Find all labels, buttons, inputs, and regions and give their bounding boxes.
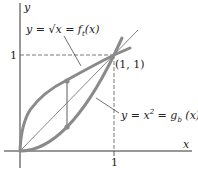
point-label: (1, 1) bbox=[115, 59, 145, 70]
bottom-curve-label: y = x2 = gb (x) bbox=[121, 109, 198, 124]
tick-x-label: 1 bbox=[111, 157, 118, 168]
y-axis-label: y bbox=[24, 2, 30, 13]
point-bottom bbox=[64, 124, 69, 129]
x-axis-label: x bbox=[183, 139, 189, 150]
top-curve-label: y = √x = ft(x) bbox=[26, 24, 100, 38]
point-top bbox=[64, 78, 69, 83]
diagram-canvas: y x 1 1 (1, 1) y = √x = ft(x) y = x2 = g… bbox=[0, 0, 198, 170]
curve-sqrt-x bbox=[20, 48, 130, 151]
leader-top bbox=[64, 36, 81, 66]
leader-bottom bbox=[96, 98, 119, 113]
line-y-equals-x bbox=[20, 30, 138, 151]
tick-y-label: 1 bbox=[10, 50, 17, 61]
